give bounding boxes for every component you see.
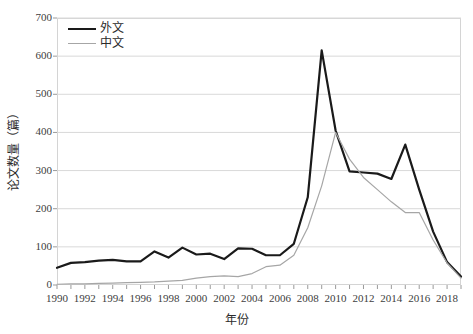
gridlines (57, 18, 461, 247)
y-axis-ticks (53, 18, 57, 285)
legend-line-swatch-chinese (68, 43, 96, 44)
x-axis-title: 年份 (0, 310, 473, 328)
x-axis-ticks (57, 285, 461, 289)
y-axis-title: 论文数量（篇） (4, 84, 22, 214)
x-axis-tick-label: 2018 (427, 292, 467, 304)
chart-legend: 外文 中文 (68, 21, 124, 51)
legend-label-foreign: 外文 (100, 21, 124, 36)
legend-item-1: 中文 (68, 36, 124, 51)
legend-item-0: 外文 (68, 21, 124, 36)
legend-label-chinese: 中文 (100, 36, 124, 51)
series-lines (57, 50, 461, 284)
legend-line-swatch-foreign (68, 28, 96, 30)
series-line-foreign (57, 50, 461, 276)
chart-container: 0100200300400500600700 外文 中文 年份 论文数量（篇） … (0, 0, 473, 334)
